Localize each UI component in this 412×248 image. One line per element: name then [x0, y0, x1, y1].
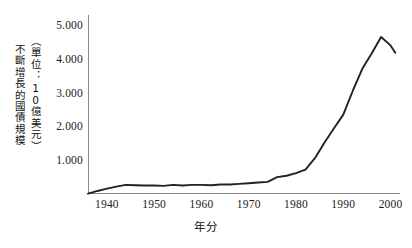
y-tick-label: 3.000	[56, 87, 83, 99]
x-tick-label: 2000	[379, 198, 403, 210]
y-axis-title: 不斷增長的國債規模	[14, 44, 25, 147]
x-tick-label: 1990	[331, 198, 355, 210]
y-tick-label: 4.000	[56, 53, 83, 65]
x-tick-label: 1960	[190, 198, 214, 210]
x-tick-label: 1940	[95, 198, 119, 210]
y-tick-label: 2.000	[56, 120, 83, 132]
chart-figure: 不斷增長的國債規模 （單位：10億美元） 1.0002.0003.0004.00…	[0, 0, 412, 248]
data-series-line	[88, 15, 400, 194]
y-tick-label: 1.000	[56, 154, 83, 166]
y-tick-label: 5.000	[56, 19, 83, 31]
y-axis-units-label: （單位：10億美元）	[30, 36, 41, 152]
x-tick-label: 1950	[142, 198, 166, 210]
x-axis-title: 年分	[0, 218, 412, 234]
x-tick-label: 1980	[284, 198, 308, 210]
x-tick-label: 1970	[237, 198, 261, 210]
plot-area: 1.0002.0003.0004.0005.000 19401950196019…	[88, 15, 400, 194]
